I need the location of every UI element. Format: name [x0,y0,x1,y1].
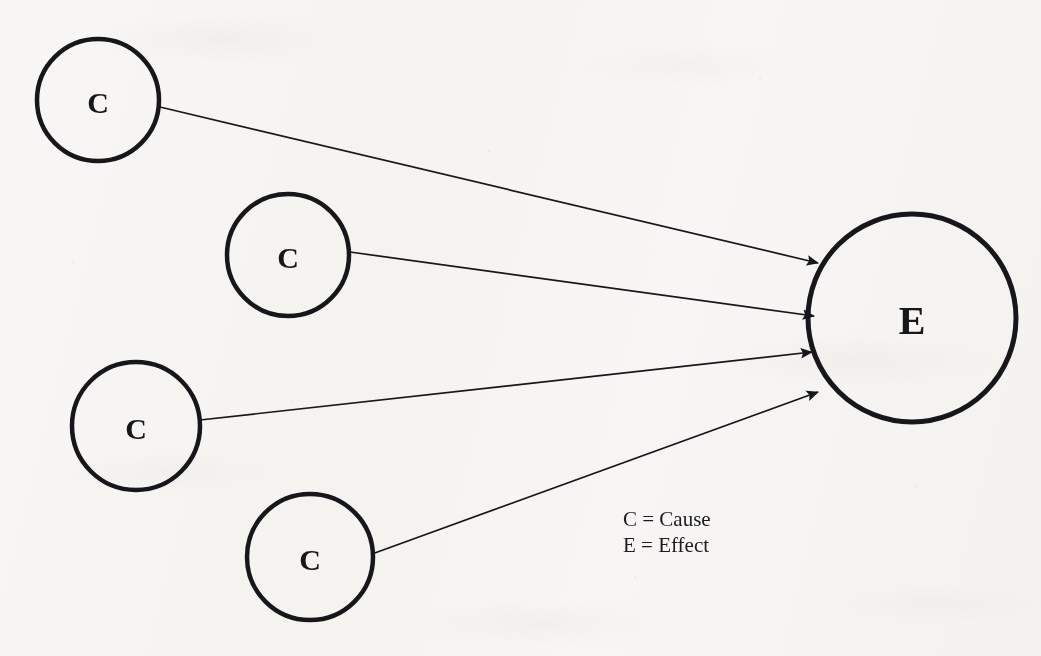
edge-cause-3-to-effect [200,352,812,420]
node-effect[interactable]: E [808,214,1016,422]
diagram-canvas: C C C C E C = Cause E = Effect [0,0,1041,656]
node-group: C C C C E [37,39,1016,620]
legend-cause-line: C = Cause [623,507,711,531]
cause-2-label: C [277,241,299,274]
node-cause-1[interactable]: C [37,39,159,161]
node-cause-2[interactable]: C [227,194,349,316]
cause-1-label: C [87,86,109,119]
cause-4-label: C [299,543,321,576]
edge-cause-4-to-effect [372,392,818,554]
effect-label: E [899,298,926,343]
cause-effect-diagram: C C C C E C = Cause E = Effect [0,0,1041,656]
edge-cause-2-to-effect [350,252,814,316]
cause-3-label: C [125,412,147,445]
edge-group [160,107,818,554]
node-cause-4[interactable]: C [247,494,373,620]
node-cause-3[interactable]: C [72,362,200,490]
legend-effect-line: E = Effect [623,533,709,557]
legend: C = Cause E = Effect [623,507,711,557]
edge-cause-1-to-effect [160,107,818,263]
